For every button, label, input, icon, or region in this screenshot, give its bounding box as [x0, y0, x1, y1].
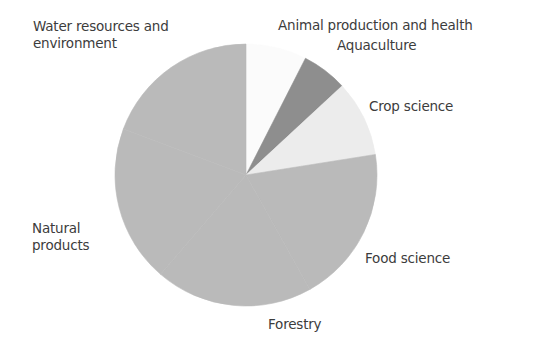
slice-label: Naturalproducts	[32, 220, 89, 254]
slice-label: Food science	[365, 250, 450, 267]
pie-slices	[115, 44, 377, 306]
slice-label: Animal production and health	[278, 17, 473, 34]
slice-label: Crop science	[369, 98, 453, 115]
slice-label: Forestry	[268, 316, 321, 333]
slice-label: Water resources andenvironment	[33, 18, 169, 52]
slice-label-line: Forestry	[268, 316, 321, 333]
slice-label-line: Animal production and health	[278, 17, 473, 34]
pie-chart	[0, 0, 558, 356]
slice-label-line: Water resources and	[33, 18, 169, 35]
slice-label-line: Natural	[32, 220, 89, 237]
slice-label-line: products	[32, 237, 89, 254]
slice-label-line: Aquaculture	[337, 37, 416, 54]
slice-label-line: environment	[33, 35, 169, 52]
slice-label: Aquaculture	[337, 37, 416, 54]
slice-label-line: Crop science	[369, 98, 453, 115]
slice-label-line: Food science	[365, 250, 450, 267]
